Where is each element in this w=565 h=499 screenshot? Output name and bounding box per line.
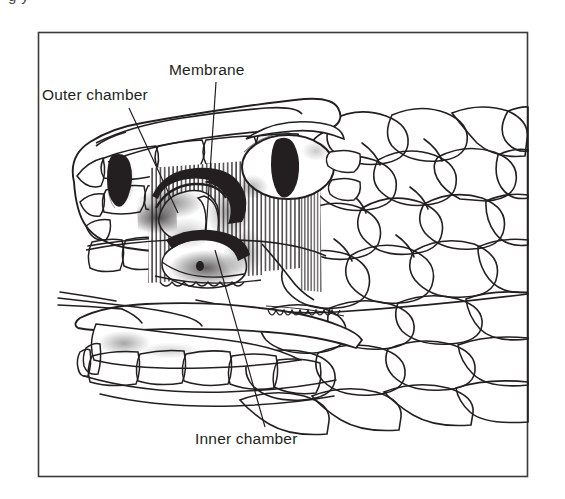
figure-root: g y (0, 0, 565, 499)
label-membrane: Membrane (169, 61, 245, 78)
label-outer-chamber: Outer chamber (42, 86, 148, 103)
label-inner-chamber: Inner chamber (195, 430, 298, 447)
pit-viper-head-illustration: Outer chamber Membrane Inner chamber (0, 0, 565, 499)
